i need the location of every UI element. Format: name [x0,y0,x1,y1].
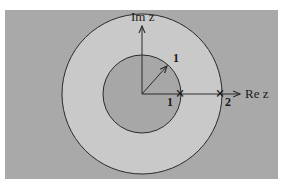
point-1-label: 1 [167,95,173,109]
imaginary-axis-label: Im z [131,9,155,24]
point-2-marker: × [216,85,225,102]
point-2-label: 2 [225,95,231,109]
annulus-diagram: Im z Re z 1 × 1 × 2 [0,0,281,184]
real-axis-label: Re z [245,86,269,101]
radius-label: 1 [173,51,179,65]
point-1-marker: × [176,85,185,102]
